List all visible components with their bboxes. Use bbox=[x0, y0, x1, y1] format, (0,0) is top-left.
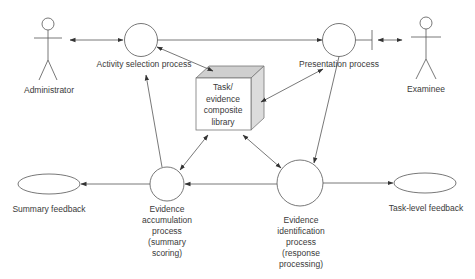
evidence-accumulation-label: Evidence accumulation process (summary s… bbox=[142, 204, 192, 259]
summary-feedback-node bbox=[18, 174, 80, 194]
edge-presentation-examinee bbox=[356, 30, 403, 50]
edge-library-identification bbox=[243, 135, 281, 168]
evidence-identification-label: Evidence identification process (respons… bbox=[277, 215, 324, 270]
presentation-label: Presentation process bbox=[299, 59, 379, 70]
administrator-label: Administrator bbox=[24, 85, 74, 96]
summary-feedback-label: Summary feedback bbox=[12, 204, 85, 215]
activity-selection-label: Activity selection process bbox=[97, 59, 192, 70]
library-label: Task/ evidence composite library bbox=[204, 82, 243, 128]
evidence-accumulation-process-node bbox=[150, 167, 184, 201]
edge-accumulation-activity bbox=[146, 75, 162, 167]
edge-presentation-identification bbox=[314, 57, 339, 164]
evidence-identification-process-node bbox=[277, 160, 323, 206]
presentation-process-node bbox=[323, 24, 356, 57]
administrator-actor-icon bbox=[34, 18, 62, 80]
task-level-feedback-node bbox=[394, 173, 456, 193]
activity-selection-process-node bbox=[125, 24, 158, 57]
diagram-canvas bbox=[0, 0, 475, 279]
edge-library-accumulation bbox=[180, 135, 208, 170]
examinee-label: Examinee bbox=[407, 84, 445, 95]
examinee-actor-icon bbox=[411, 17, 441, 79]
edge-presentation-library bbox=[261, 69, 323, 102]
task-level-feedback-label: Task-level feedback bbox=[389, 203, 464, 214]
